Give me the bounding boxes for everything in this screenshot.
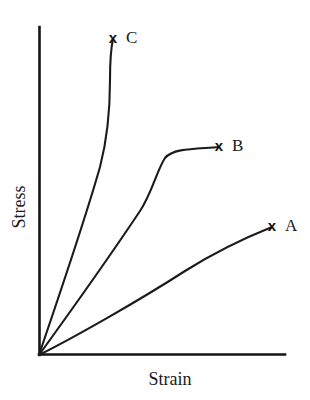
stress-strain-plot: x x x C B A Stress Strain	[0, 0, 310, 400]
curve-c-path	[39, 39, 113, 355]
curve-a-path	[39, 227, 272, 355]
curve-c-label: C	[126, 28, 137, 47]
curve-b-endpoint-marker-icon: x	[215, 137, 224, 154]
curve-b-path	[39, 147, 219, 355]
curve-b-label: B	[232, 136, 243, 155]
curve-a-endpoint-marker-icon: x	[268, 217, 277, 234]
y-axis-title: Stress	[9, 185, 29, 228]
curve-a-label: A	[285, 216, 298, 235]
x-axis-title: Strain	[149, 369, 192, 389]
curve-c-endpoint-marker-icon: x	[109, 29, 118, 46]
stress-strain-figure: x x x C B A Stress Strain	[0, 0, 310, 400]
